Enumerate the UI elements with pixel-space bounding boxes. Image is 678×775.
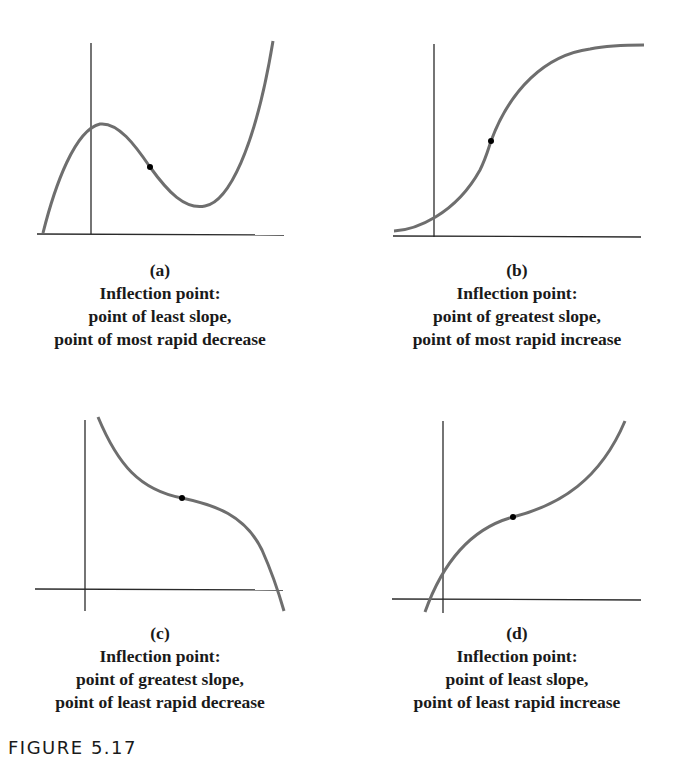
panel-d-line1: point of least slope,	[352, 668, 678, 691]
panel-c-curve	[98, 417, 284, 611]
panel-c-line1: point of greatest slope,	[0, 668, 325, 691]
panel-c-x-axis	[35, 589, 283, 590]
panel-b-inflection-point	[488, 138, 494, 144]
panel-a-graph	[37, 41, 284, 235]
panel-b-title: Inflection point:	[352, 282, 678, 305]
panel-d-line2: point of least rapid increase	[352, 691, 678, 714]
panel-d-caption: (d) Inflection point: point of least slo…	[352, 622, 678, 714]
panel-a-tag: (a)	[0, 259, 325, 282]
panel-d-graph	[392, 421, 641, 613]
panel-b-caption: (b) Inflection point: point of greatest …	[352, 259, 678, 351]
panel-b-line1: point of greatest slope,	[352, 305, 678, 328]
panel-b-graph	[393, 44, 644, 237]
figure-label: FIGURE 5.17	[8, 737, 137, 758]
panel-c-line2: point of least rapid decrease	[0, 691, 325, 714]
panel-d-curve	[425, 421, 625, 612]
panel-a-curve	[43, 41, 273, 233]
panel-d-title: Inflection point:	[352, 645, 678, 668]
panel-c-title: Inflection point:	[0, 645, 325, 668]
panel-b-x-axis	[393, 236, 641, 237]
panel-c-inflection-point	[179, 495, 185, 501]
panel-b-tag: (b)	[352, 259, 678, 282]
panel-a-line1: point of least slope,	[0, 305, 325, 328]
panel-b-curve	[394, 45, 644, 231]
panel-a-caption: (a) Inflection point: point of least slo…	[0, 259, 325, 351]
panel-a-title: Inflection point:	[0, 282, 325, 305]
panel-d-inflection-point	[510, 514, 516, 520]
panel-c-tag: (c)	[0, 622, 325, 645]
panel-a-x-axis	[37, 234, 284, 235]
panel-c-graph	[35, 417, 284, 611]
panel-b-line2: point of most rapid increase	[352, 328, 678, 351]
panel-d-tag: (d)	[352, 622, 678, 645]
panel-c-caption: (c) Inflection point: point of greatest …	[0, 622, 325, 714]
panel-a-line2: point of most rapid decrease	[0, 328, 325, 351]
panel-a-inflection-point	[147, 164, 153, 170]
